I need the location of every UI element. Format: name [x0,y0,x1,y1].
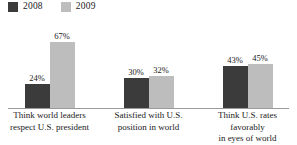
bar-slot-1-2008: 30% [124,22,149,108]
bar-2-2009 [248,64,273,108]
bar-groups: 24% 67% 30% 32% [0,22,297,108]
grouped-bar-chart: 2008 2009 24% 67% 30% [0,0,297,145]
category-label-line: Think world leaders [3,110,96,122]
category-label-0: Think world leaders respect U.S. preside… [0,110,99,145]
bar-0-2009 [50,42,75,108]
legend-item-2008: 2008 [8,2,43,12]
bar-group-2: 43% 45% [198,22,297,108]
bar-value-label: 43% [227,56,243,65]
category-label-2: Think U.S. rates favorably in eyes of wo… [198,110,297,145]
category-label-line: Think U.S. rates favorably [201,110,294,133]
bar-group-0: 24% 67% [0,22,99,108]
bar-slot-2-2008: 43% [223,22,248,108]
legend-swatch-2009 [61,2,71,12]
bar-value-label: 32% [153,66,169,75]
bar-value-label: 30% [128,68,144,77]
plot-area: 24% 67% 30% 32% [0,22,297,109]
bar-slot-1-2009: 32% [149,22,174,108]
bar-slot-0-2009: 67% [50,22,75,108]
bar-1-2008 [124,78,149,108]
legend-label-2008: 2008 [23,2,43,12]
category-label-line: respect U.S. president [3,122,96,134]
category-label-line: position in world [102,122,195,134]
bar-slot-2-2009: 45% [248,22,273,108]
category-label-line: Satisfied with U.S. [102,110,195,122]
bar-1-2009 [149,76,174,108]
bar-value-label: 67% [54,32,70,41]
bar-value-label: 45% [252,54,268,63]
legend-item-2009: 2009 [61,2,96,12]
legend-label-2009: 2009 [76,2,96,12]
category-labels: Think world leaders respect U.S. preside… [0,110,297,145]
bar-slot-0-2008: 24% [25,22,50,108]
bar-0-2008 [25,84,50,108]
category-label-1: Satisfied with U.S. position in world [99,110,198,145]
category-label-line: in eyes of world [201,133,294,145]
bar-value-label: 24% [29,74,45,83]
bar-2-2008 [223,66,248,108]
legend-swatch-2008 [8,2,18,12]
bar-group-1: 30% 32% [99,22,198,108]
x-axis-baseline [8,108,289,109]
chart-legend: 2008 2009 [8,2,96,12]
